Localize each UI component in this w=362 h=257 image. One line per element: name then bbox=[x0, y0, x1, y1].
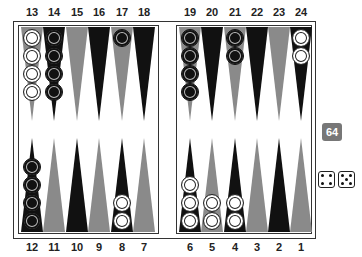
black-checker[interactable] bbox=[181, 29, 199, 47]
point-5[interactable] bbox=[201, 138, 223, 232]
point-19[interactable] bbox=[179, 27, 201, 121]
point-label-14: 14 bbox=[43, 6, 65, 18]
black-checker[interactable] bbox=[23, 212, 41, 230]
die-pip bbox=[341, 182, 344, 185]
black-checker[interactable] bbox=[181, 83, 199, 101]
white-checker[interactable] bbox=[23, 65, 41, 83]
point-label-23: 23 bbox=[268, 6, 290, 18]
doubling-cube[interactable]: 64 bbox=[322, 123, 342, 141]
point-label-1: 1 bbox=[290, 241, 312, 253]
black-checker[interactable] bbox=[23, 194, 41, 212]
white-checker[interactable] bbox=[23, 29, 41, 47]
point-label-7: 7 bbox=[133, 241, 155, 253]
point-label-9: 9 bbox=[88, 241, 110, 253]
point-label-11: 11 bbox=[43, 241, 65, 253]
white-checker[interactable] bbox=[292, 47, 310, 65]
die-pip bbox=[329, 182, 332, 185]
die-pip bbox=[329, 174, 332, 177]
white-checker[interactable] bbox=[181, 176, 199, 194]
point-10[interactable] bbox=[66, 138, 88, 232]
point-label-20: 20 bbox=[201, 6, 223, 18]
white-checker[interactable] bbox=[113, 212, 131, 230]
white-checker[interactable] bbox=[203, 194, 221, 212]
point-8[interactable] bbox=[111, 138, 133, 232]
die-pip bbox=[321, 182, 324, 185]
point-15[interactable] bbox=[66, 27, 88, 121]
white-checker[interactable] bbox=[203, 212, 221, 230]
black-checker[interactable] bbox=[45, 83, 63, 101]
white-checker[interactable] bbox=[181, 194, 199, 212]
point-12[interactable] bbox=[21, 138, 43, 232]
white-checker[interactable] bbox=[292, 29, 310, 47]
black-checker[interactable] bbox=[181, 65, 199, 83]
point-label-19: 19 bbox=[179, 6, 201, 18]
white-checker[interactable] bbox=[226, 212, 244, 230]
black-checker[interactable] bbox=[23, 176, 41, 194]
black-checker[interactable] bbox=[113, 29, 131, 47]
point-label-17: 17 bbox=[111, 6, 133, 18]
point-label-12: 12 bbox=[21, 241, 43, 253]
die-2[interactable] bbox=[338, 171, 355, 188]
die-pip bbox=[349, 174, 352, 177]
point-label-3: 3 bbox=[246, 241, 268, 253]
point-label-2: 2 bbox=[268, 241, 290, 253]
point-7[interactable] bbox=[133, 138, 155, 232]
black-checker[interactable] bbox=[45, 65, 63, 83]
point-label-16: 16 bbox=[88, 6, 110, 18]
point-24[interactable] bbox=[290, 27, 312, 121]
white-checker[interactable] bbox=[113, 194, 131, 212]
point-3[interactable] bbox=[246, 138, 268, 232]
point-11[interactable] bbox=[43, 138, 65, 232]
point-label-13: 13 bbox=[21, 6, 43, 18]
point-label-18: 18 bbox=[133, 6, 155, 18]
point-label-10: 10 bbox=[66, 241, 88, 253]
black-checker[interactable] bbox=[226, 47, 244, 65]
die-1[interactable] bbox=[318, 171, 335, 188]
point-22[interactable] bbox=[246, 27, 268, 121]
point-13[interactable] bbox=[21, 27, 43, 121]
die-pip bbox=[341, 174, 344, 177]
point-9[interactable] bbox=[88, 138, 110, 232]
point-4[interactable] bbox=[224, 138, 246, 232]
die-pip bbox=[349, 182, 352, 185]
black-checker[interactable] bbox=[45, 29, 63, 47]
white-checker[interactable] bbox=[23, 83, 41, 101]
point-20[interactable] bbox=[201, 27, 223, 121]
point-23[interactable] bbox=[268, 27, 290, 121]
point-14[interactable] bbox=[43, 27, 65, 121]
black-checker[interactable] bbox=[23, 158, 41, 176]
point-label-24: 24 bbox=[290, 6, 312, 18]
point-label-8: 8 bbox=[111, 241, 133, 253]
black-checker[interactable] bbox=[181, 47, 199, 65]
point-label-15: 15 bbox=[66, 6, 88, 18]
point-label-5: 5 bbox=[201, 241, 223, 253]
point-label-6: 6 bbox=[179, 241, 201, 253]
white-checker[interactable] bbox=[226, 194, 244, 212]
white-checker[interactable] bbox=[23, 47, 41, 65]
point-16[interactable] bbox=[88, 27, 110, 121]
black-checker[interactable] bbox=[45, 47, 63, 65]
point-6[interactable] bbox=[179, 138, 201, 232]
white-checker[interactable] bbox=[181, 212, 199, 230]
point-label-21: 21 bbox=[224, 6, 246, 18]
point-label-22: 22 bbox=[246, 6, 268, 18]
point-17[interactable] bbox=[111, 27, 133, 121]
point-2[interactable] bbox=[268, 138, 290, 232]
point-label-4: 4 bbox=[224, 241, 246, 253]
point-21[interactable] bbox=[224, 27, 246, 121]
die-pip bbox=[345, 178, 348, 181]
point-18[interactable] bbox=[133, 27, 155, 121]
point-1[interactable] bbox=[290, 138, 312, 232]
black-checker[interactable] bbox=[226, 29, 244, 47]
die-pip bbox=[321, 174, 324, 177]
